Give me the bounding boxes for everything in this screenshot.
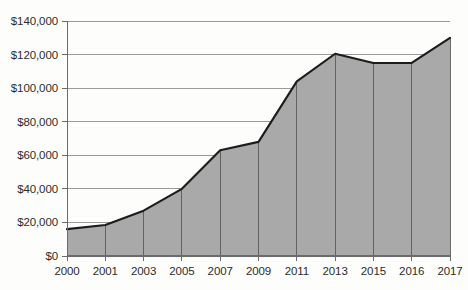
chart-plot-area: [0, 0, 468, 290]
area-chart: $0$20,000$40,000$60,000$80,000$100,000$1…: [0, 0, 468, 290]
